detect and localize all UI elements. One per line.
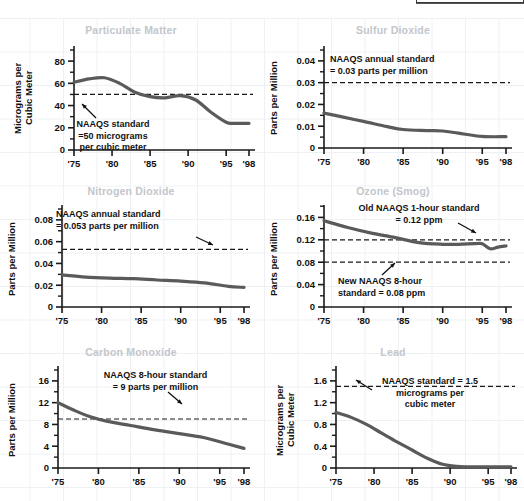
svg-text:80: 80 [54,56,65,67]
svg-text:4: 4 [44,441,50,452]
svg-text:'80: '80 [357,315,370,326]
svg-text:'90: '90 [174,315,187,326]
svg-text:40: 40 [54,100,65,111]
plot-particulate-matter: 020406080'75'80'85'90'95'98 [0,18,262,179]
svg-text:'98: '98 [238,315,251,326]
svg-text:'95: '95 [476,315,490,326]
panel-nitrogen-dioxide: Nitrogen Dioxide Parts per Million 00.02… [0,179,262,340]
svg-text:0.12: 0.12 [297,234,316,245]
svg-text:'98: '98 [500,156,513,167]
svg-text:0.8: 0.8 [314,419,327,430]
svg-text:'75: '75 [318,156,332,167]
svg-text:'95: '95 [213,476,227,487]
svg-text:0.04: 0.04 [297,55,316,66]
svg-text:'85: '85 [406,476,420,487]
svg-text:0.16: 0.16 [297,212,316,223]
svg-text:'90: '90 [182,158,195,169]
annotation-naaqs: NAAQS standard =50 micrograms per cubic … [58,119,168,154]
svg-text:'98: '98 [243,158,256,169]
svg-text:0.08: 0.08 [35,214,54,225]
top-strip [0,0,524,18]
panel-sulfur-dioxide: Sulfur Dioxide Parts per Million 00.010.… [262,18,524,179]
svg-text:'85: '85 [397,156,411,167]
svg-text:0: 0 [44,462,49,473]
svg-text:'80: '80 [368,476,381,487]
svg-text:16: 16 [38,375,49,386]
svg-text:'75: '75 [330,476,344,487]
chart-grid: Particulate Matter Micrograms per Cubic … [0,18,524,501]
svg-text:0: 0 [322,462,327,473]
svg-text:'75: '75 [56,315,70,326]
svg-text:0: 0 [310,301,315,312]
svg-text:'85: '85 [135,315,149,326]
svg-text:0.06: 0.06 [35,236,54,247]
svg-text:'80: '80 [357,156,370,167]
svg-text:8: 8 [44,419,49,430]
svg-text:0.02: 0.02 [297,99,316,110]
svg-text:'95: '95 [476,156,490,167]
annotation-naaqs: NAAQS annual standard = 0.03 parts per m… [330,54,470,77]
panel-ozone-smog: Ozone (Smog) Parts per Million 00.040.08… [262,179,524,340]
svg-text:'90: '90 [436,315,449,326]
window-chrome-box [416,0,524,3]
svg-text:'80: '80 [106,158,119,169]
svg-text:'90: '90 [436,156,449,167]
svg-text:'75: '75 [52,476,66,487]
svg-text:'98: '98 [500,315,513,326]
svg-text:'95: '95 [482,476,496,487]
svg-text:0: 0 [310,142,315,153]
svg-text:0.01: 0.01 [297,121,316,132]
svg-text:'80: '80 [92,476,105,487]
annotation-naaqs: NAAQS 8-hour standard = 9 parts per mill… [78,370,233,393]
svg-text:'75: '75 [318,315,332,326]
annotation-old-standard: Old NAAQS 1-hour standard = 0.12 ppm [344,203,494,226]
plot-sulfur-dioxide: 00.010.020.030.04'75'80'85'90'95'98 [262,18,524,179]
svg-text:'95: '95 [214,315,228,326]
svg-text:'85: '85 [132,476,146,487]
svg-text:'85: '85 [397,315,411,326]
svg-text:0.04: 0.04 [297,279,316,290]
svg-text:60: 60 [54,78,65,89]
svg-text:0: 0 [48,301,53,312]
svg-text:0.4: 0.4 [314,441,328,452]
svg-text:0.02: 0.02 [35,280,54,291]
plot-lead: 00.40.81.21.6'75'80'85'90'95'98 [262,340,524,501]
svg-text:12: 12 [38,397,49,408]
svg-text:'90: '90 [173,476,186,487]
svg-text:1.6: 1.6 [314,375,327,386]
svg-text:'95: '95 [220,158,234,169]
svg-text:'80: '80 [95,315,108,326]
svg-text:'75: '75 [68,158,82,169]
plot-nitrogen-dioxide: 00.020.040.060.08'75'80'85'90'95'98 [0,179,262,340]
panel-carbon-monoxide: Carbon Monoxide Parts per Million 048121… [0,340,262,501]
svg-text:'98: '98 [505,476,518,487]
plot-carbon-monoxide: 0481216'75'80'85'90'95'98 [0,340,262,501]
svg-text:0.03: 0.03 [297,77,316,88]
svg-text:1.2: 1.2 [314,397,327,408]
annotation-new-standard: New NAAQS 8-hour standard = 0.08 ppm [338,276,468,299]
annotation-naaqs: NAAQS standard = 1.5 micrograms per cubi… [360,376,500,411]
svg-text:'98: '98 [238,476,251,487]
panel-particulate-matter: Particulate Matter Micrograms per Cubic … [0,18,262,179]
svg-text:0.08: 0.08 [297,257,316,268]
svg-text:0.04: 0.04 [35,258,54,269]
svg-text:'85: '85 [144,158,158,169]
annotation-naaqs: NAAQS annual standard = 0.053 parts per … [56,209,211,232]
panel-lead: Lead Micrograms per Cubic Meter 00.40.81… [262,340,524,501]
svg-text:'90: '90 [444,476,457,487]
